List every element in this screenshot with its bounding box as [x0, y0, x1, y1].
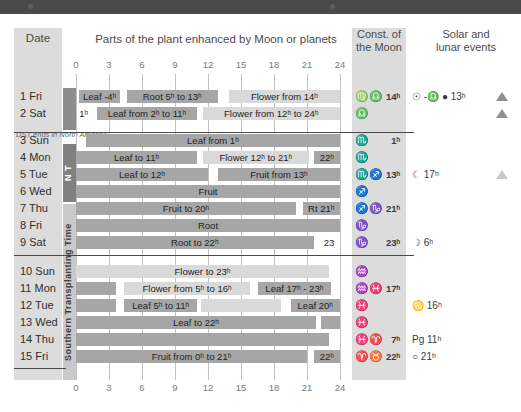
- bar-2-sat-2: Flower from 12ʰ to 24ʰ: [203, 107, 341, 120]
- bar-2-sat-0: 1ʰ: [76, 107, 91, 120]
- axis-tick-6: 6: [131, 382, 153, 393]
- bar-13-wed-1: [321, 316, 340, 329]
- zodiac-icon: ♓: [352, 314, 380, 331]
- constellation-hour: 23ʰ: [380, 234, 400, 251]
- solar-lunar-event-row-11: ♋ 16ʰ: [412, 297, 512, 314]
- solar-lunar-event-row-14: ○ 21ʰ: [412, 348, 512, 365]
- zodiac-icon: ♏: [352, 132, 380, 149]
- zodiac-icon: ♓: [352, 297, 380, 314]
- constellation-row-10: ♒♓17ʰ: [352, 280, 406, 297]
- bar-7-thu-1: Rt 21ʰ: [303, 202, 340, 215]
- bar-5-tue-0: Leaf to 12ʰ: [76, 168, 208, 181]
- bar-10-sun-0: Flower to 23ʰ: [76, 265, 329, 278]
- date-cell-12-tue: 12 Tue: [14, 297, 62, 314]
- northern-transplanting-band: N T: [63, 144, 76, 202]
- constellation-row-6: ♐♑21ʰ: [352, 200, 406, 217]
- axis-tick-15: 15: [230, 382, 252, 393]
- bar-1-fri-2: Flower from 14ʰ: [229, 90, 340, 103]
- separator-0: [14, 132, 414, 133]
- zodiac-icon: ♒♓: [352, 280, 380, 297]
- constellation-row-9: ♒: [352, 263, 406, 280]
- bar-4-mon-0: Leaf to 11ʰ: [76, 151, 197, 164]
- constellation-row-4: ♏♐13ʰ: [352, 166, 406, 183]
- calendar-sheet: Date Parts of the plant enhanced by Moon…: [0, 14, 521, 412]
- axis-tick-18: 18: [263, 382, 285, 393]
- constellation-hour: 22ʰ: [380, 348, 400, 365]
- bar-11-mon-0: [76, 282, 116, 295]
- bar-1-fri-0: Leaf -4ʰ: [79, 90, 120, 103]
- events-header-line2: lunar events: [436, 41, 496, 53]
- triangle-marker-icon: [496, 170, 508, 179]
- triangle-marker-icon: [496, 92, 508, 101]
- constellation-hour: 1ʰ: [380, 132, 400, 149]
- bar-14-thu-0: [76, 333, 329, 346]
- axis-tick-21: 21: [296, 59, 318, 70]
- zodiac-icon: ♑: [352, 234, 380, 251]
- bar-9-sat-0: Root to 22ʰ: [76, 236, 314, 249]
- date-column-header: Date: [14, 32, 62, 44]
- bar-6-wed-0: Fruit: [76, 185, 340, 198]
- constellation-row-5: ♐: [352, 183, 406, 200]
- bar-9-sat-1: 23: [318, 236, 340, 249]
- zodiac-icon: ♑: [352, 217, 380, 234]
- axis-tick-9: 9: [164, 382, 186, 393]
- bar-8-fri-0: Root: [76, 219, 340, 232]
- zodiac-icon: ♐♑: [352, 200, 380, 217]
- constellation-hour: 17ʰ: [380, 280, 400, 297]
- axis-tick-6: 6: [131, 59, 153, 70]
- titlebar-dot-left: [28, 4, 33, 9]
- axis-tick-24: 24: [329, 59, 351, 70]
- constellation-row-13: ♓♈7ʰ: [352, 331, 406, 348]
- const-header-line2: the Moon: [356, 41, 402, 53]
- constellation-row-11: ♓: [352, 297, 406, 314]
- bar-12-tue-2: [201, 299, 280, 312]
- date-cell-8-fri: 8 Fri: [14, 217, 62, 234]
- date-cell-11-mon: 11 Mon: [14, 280, 62, 297]
- constellation-row-7: ♑: [352, 217, 406, 234]
- axis-tick-15: 15: [230, 59, 252, 70]
- date-cell-2-sat: 2 Sat: [14, 105, 62, 122]
- bar-4-mon-2: 22ʰ: [314, 151, 340, 164]
- parts-column-header: Parts of the plant enhanced by Moon or p…: [82, 33, 350, 45]
- solar-lunar-event-row-13: Pg 11ʰ: [412, 331, 512, 348]
- date-cell-15-fri: 15 Fri: [14, 348, 62, 365]
- bar-11-mon-2: Leaf 17ʰ - 23ʰ: [258, 282, 332, 295]
- axis-tick-0: 0: [65, 382, 87, 393]
- north-tab-block: [63, 88, 76, 130]
- triangle-marker-icon: [496, 109, 508, 118]
- bar-12-tue-3: Leaf 20ʰ: [291, 299, 341, 312]
- bar-13-wed-0: Leaf to 22ʰ: [76, 316, 316, 329]
- zodiac-icon: ♍♎: [352, 88, 380, 105]
- date-cell-4-mon: 4 Mon: [14, 149, 62, 166]
- titlebar-dot-right: [330, 4, 335, 9]
- constellation-hour: 21ʰ: [380, 200, 400, 217]
- bar-3-sun-0: Leaf from 1ʰ: [86, 134, 340, 147]
- zodiac-icon: ♏: [352, 149, 380, 166]
- gridline-24: [340, 74, 341, 380]
- constellation-row-3: ♏: [352, 149, 406, 166]
- bar-15-fri-0: Fruit from 0ʰ to 21ʰ: [76, 350, 307, 363]
- axis-tick-12: 12: [197, 59, 219, 70]
- axis-tick-3: 3: [98, 59, 120, 70]
- axis-tick-18: 18: [263, 59, 285, 70]
- axis-tick-0: 0: [65, 59, 87, 70]
- constellation-row-1: ♎: [352, 105, 406, 122]
- axis-tick-21: 21: [296, 382, 318, 393]
- constellation-row-8: ♑23ʰ: [352, 234, 406, 251]
- date-cell-14-thu: 14 Thu: [14, 331, 62, 348]
- events-header-line1: Solar and: [442, 28, 489, 40]
- window-titlebar: [0, 0, 521, 14]
- bar-5-tue-1: Fruit from 13ʰ: [218, 168, 340, 181]
- date-cell-10-sun: 10 Sun: [14, 263, 62, 280]
- date-cell-9-sat: 9 Sat: [14, 234, 62, 251]
- date-cell-3-sun: 3 Sun: [14, 132, 62, 149]
- bar-12-tue-1: Leaf 5ʰ to 11ʰ: [124, 299, 197, 312]
- constellation-hour: 13ʰ: [380, 166, 400, 183]
- separator-1: [14, 255, 414, 256]
- constellation-row-12: ♓: [352, 314, 406, 331]
- zodiac-icon: ♈♉: [352, 348, 380, 365]
- solar-lunar-event-row-8: ☽ 6ʰ: [412, 234, 512, 251]
- constellation-row-0: ♍♎14ʰ: [352, 88, 406, 105]
- axis-tick-12: 12: [197, 382, 219, 393]
- date-cell-5-tue: 5 Tue: [14, 166, 62, 183]
